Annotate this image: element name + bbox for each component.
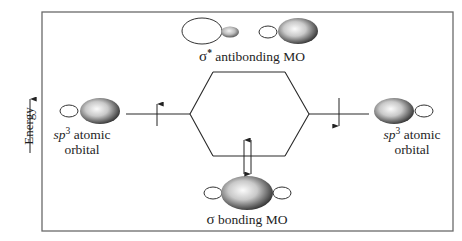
bonding-label: σ bonding MO xyxy=(195,212,299,227)
sp-italic: sp xyxy=(54,127,66,142)
atomic-text: atomic xyxy=(400,127,440,142)
left-sp3-orbital-icon xyxy=(60,98,120,124)
superscript-3: 3 xyxy=(396,126,401,136)
star-superscript: * xyxy=(207,48,212,58)
orbital-text: orbital xyxy=(52,142,112,157)
right-ao-label: sp3 atomic orbital xyxy=(382,127,442,157)
correlation-line-right xyxy=(285,72,309,156)
sp-italic: sp xyxy=(384,127,396,142)
orbital-text: orbital xyxy=(382,142,442,157)
bonding-orbital-icon xyxy=(204,176,291,210)
atomic-text: atomic xyxy=(70,127,110,142)
bonding-text: bonding MO xyxy=(215,212,288,227)
mo-diagram xyxy=(0,0,462,241)
antibonding-text: antibonding MO xyxy=(212,49,305,64)
antibonding-orbital-icon xyxy=(182,18,318,44)
sigma-symbol: σ xyxy=(199,48,207,64)
correlation-line-left xyxy=(190,72,213,156)
left-ao-label: sp3 atomic orbital xyxy=(52,127,112,157)
antibonding-label: σ* antibonding MO xyxy=(184,49,320,64)
energy-levels xyxy=(126,72,369,156)
superscript-3: 3 xyxy=(66,126,71,136)
right-sp3-orbital-icon xyxy=(374,98,433,124)
energy-axis-label: Energy xyxy=(21,101,37,151)
sigma-symbol: σ xyxy=(207,211,215,227)
